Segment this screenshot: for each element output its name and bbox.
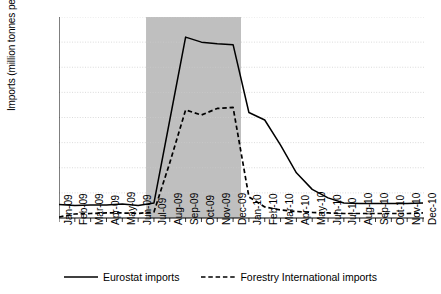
legend-item-1: Eurostat imports xyxy=(64,271,179,283)
x-tick-label: Apr-09 xyxy=(110,195,121,225)
x-tick-label: Oct-09 xyxy=(205,195,216,225)
x-tick-label: Sep-09 xyxy=(189,193,200,225)
legend-dashed-swatch-icon xyxy=(201,272,235,282)
x-tick-label: Jan-10 xyxy=(252,194,263,225)
x-tick-label: Jul-09 xyxy=(157,198,168,225)
x-tick-label: Nov-09 xyxy=(221,193,232,225)
legend-item-2: Forestry International imports xyxy=(201,271,377,283)
x-tick-label: Dec-10 xyxy=(427,193,438,225)
x-tick-label: Aug-09 xyxy=(173,193,184,225)
x-tick-label: May-09 xyxy=(126,192,137,225)
x-tick-label: Feb-09 xyxy=(78,193,89,225)
legend-solid-swatch-icon xyxy=(64,272,98,282)
x-tick-label: Apr-10 xyxy=(300,195,311,225)
x-tick-label: Mar-10 xyxy=(284,193,295,225)
x-tick-label: Feb-10 xyxy=(268,193,279,225)
x-tick-label: Sep-10 xyxy=(379,193,390,225)
x-tick-label: Dec-09 xyxy=(237,193,248,225)
x-axis-tick-labels: Jan-09Feb-09Mar-09Apr-09May-09Jun-09Jul-… xyxy=(0,0,441,294)
x-tick-label: Oct-10 xyxy=(395,195,406,225)
legend-label: Eurostat imports xyxy=(103,271,179,283)
x-tick-label: Mar-09 xyxy=(94,193,105,225)
x-tick-label: Jan-09 xyxy=(63,194,74,225)
legend-label: Forestry International imports xyxy=(240,271,377,283)
chart-legend: Eurostat importsForestry International i… xyxy=(0,271,441,283)
x-tick-label: May-10 xyxy=(316,192,327,225)
imports-line-chart: Imports (million tonnes per annum) 0.00.… xyxy=(0,0,441,294)
x-tick-label: Nov-10 xyxy=(411,193,422,225)
x-tick-label: Jul-10 xyxy=(347,198,358,225)
x-tick-label: Jun-09 xyxy=(142,194,153,225)
x-tick-label: Jun-10 xyxy=(332,194,343,225)
x-tick-label: Aug-10 xyxy=(363,193,374,225)
